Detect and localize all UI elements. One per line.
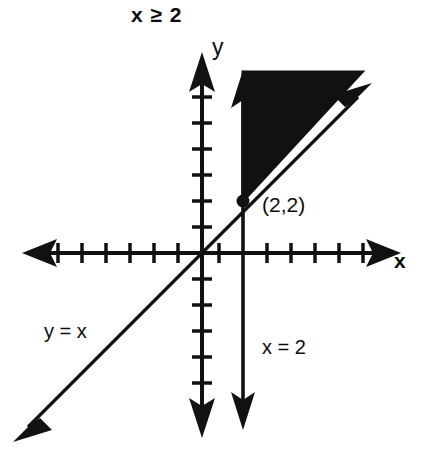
figure-background [0,0,427,451]
diagonal-line-equation-label: y = x [44,321,87,341]
vertical-line-equation-label: x = 2 [262,337,306,357]
graph-figure [0,0,427,451]
figure-title: x ≥ 2 [131,4,183,25]
point-marker-2-2 [237,195,250,208]
y-axis-label: y [212,36,224,59]
point-coordinate-label: (2,2) [262,194,305,215]
x-axis-label: x [394,250,406,271]
